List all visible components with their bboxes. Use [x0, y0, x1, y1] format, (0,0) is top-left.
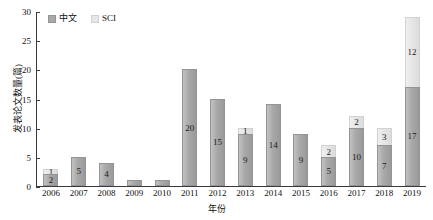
bar-value-label-chinese-2016: 5	[326, 167, 331, 176]
x-tick-label-2009: 2009	[121, 189, 147, 198]
y-tick-label-5: 5	[5, 153, 31, 162]
y-tick-label-30: 30	[5, 8, 31, 17]
bar-segment-chinese-2008[interactable]: 4	[99, 163, 114, 186]
bar-group-2017[interactable]: 210	[343, 12, 369, 186]
x-tick-label-2010: 2010	[149, 189, 175, 198]
bar-group-2010[interactable]	[149, 12, 175, 186]
bar-value-label-sci-2016: 2	[326, 147, 331, 156]
x-tick-label-2018: 2018	[371, 189, 397, 198]
x-tick-label-2012: 2012	[205, 189, 231, 198]
bar-value-label-chinese-2008: 4	[104, 170, 109, 179]
x-tick-label-2007: 2007	[66, 189, 92, 198]
x-tick-label-2017: 2017	[343, 189, 369, 198]
bar-segment-sci-2019[interactable]: 12	[405, 17, 420, 87]
bar-segment-chinese-2018[interactable]: 7	[377, 145, 392, 186]
x-axis-title: 年份	[0, 202, 433, 215]
bar-group-2012[interactable]: 15	[205, 12, 231, 186]
bar-group-2015[interactable]: 9	[288, 12, 314, 186]
y-tick-label-25: 25	[5, 37, 31, 46]
bar-value-label-chinese-2006: 2	[49, 176, 54, 185]
bar-segment-chinese-2019[interactable]: 17	[405, 87, 420, 186]
bar-value-label-chinese-2014: 14	[269, 141, 278, 150]
x-tick-label-2014: 2014	[260, 189, 286, 198]
bar-segment-chinese-2006[interactable]: 2	[43, 174, 58, 186]
bar-value-label-chinese-2012: 15	[213, 138, 222, 147]
bar-segment-chinese-2007[interactable]: 5	[71, 157, 86, 186]
x-tick-container: 2006200720082009201020112012201320142015…	[37, 189, 426, 198]
y-tick-mark-0	[36, 187, 40, 188]
bar-group-2018[interactable]: 37	[371, 12, 397, 186]
bar-group-2011[interactable]: 20	[177, 12, 203, 186]
bar-group-2014[interactable]: 14	[260, 12, 286, 186]
y-tick-label-0: 0	[5, 183, 31, 192]
x-tick-label-2006: 2006	[38, 189, 64, 198]
x-tick-label-2015: 2015	[288, 189, 314, 198]
bar-group-2008[interactable]: 4	[93, 12, 119, 186]
x-tick-label-2019: 2019	[399, 189, 425, 198]
x-tick-label-2008: 2008	[93, 189, 119, 198]
bar-group-2016[interactable]: 25	[316, 12, 342, 186]
y-tick-label-15: 15	[5, 95, 31, 104]
bar-segment-sci-2018[interactable]: 3	[377, 128, 392, 146]
bar-value-label-chinese-2011: 20	[185, 123, 194, 132]
bar-segment-chinese-2015[interactable]: 9	[293, 134, 308, 187]
publication-count-bar-chart: 发表论文数量(篇) 中文 SCI 051015202530 1254201519…	[0, 0, 433, 220]
bar-value-label-chinese-2018: 7	[382, 161, 387, 170]
x-tick-label-2011: 2011	[177, 189, 203, 198]
bar-segment-chinese-2017[interactable]: 10	[349, 128, 364, 186]
bar-segment-chinese-2011[interactable]: 20	[182, 69, 197, 186]
bar-value-label-chinese-2019: 17	[408, 132, 417, 141]
bar-group-2006[interactable]: 12	[38, 12, 64, 186]
x-tick-label-2013: 2013	[232, 189, 258, 198]
y-tick-label-20: 20	[5, 66, 31, 75]
bar-segment-chinese-2009[interactable]	[127, 180, 142, 186]
bar-segment-chinese-2014[interactable]: 14	[266, 104, 281, 186]
bar-segment-chinese-2016[interactable]: 5	[321, 157, 336, 186]
bar-segment-chinese-2013[interactable]: 9	[238, 134, 253, 187]
bar-value-label-chinese-2007: 5	[76, 167, 81, 176]
bar-segment-chinese-2010[interactable]	[155, 180, 170, 186]
bar-value-label-sci-2017: 2	[354, 118, 359, 127]
bar-value-label-chinese-2017: 10	[352, 152, 361, 161]
bar-series-container: 125420151914925210371217	[37, 12, 426, 186]
bar-group-2019[interactable]: 1217	[399, 12, 425, 186]
bar-value-label-sci-2019: 12	[408, 48, 417, 57]
bar-group-2009[interactable]	[121, 12, 147, 186]
bar-value-label-chinese-2013: 9	[243, 155, 248, 164]
bar-group-2013[interactable]: 19	[232, 12, 258, 186]
bar-group-2007[interactable]: 5	[66, 12, 92, 186]
bar-segment-sci-2017[interactable]: 2	[349, 116, 364, 128]
x-axis-line	[36, 186, 426, 187]
bar-value-label-chinese-2015: 9	[299, 155, 304, 164]
bar-segment-chinese-2012[interactable]: 15	[210, 99, 225, 187]
bar-segment-sci-2016[interactable]: 2	[321, 145, 336, 157]
x-tick-label-2016: 2016	[316, 189, 342, 198]
bar-value-label-sci-2018: 3	[382, 132, 387, 141]
plot-area: 051015202530 125420151914925210371217	[36, 12, 426, 187]
y-tick-label-10: 10	[5, 124, 31, 133]
